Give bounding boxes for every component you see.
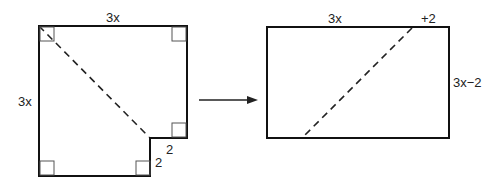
right-cut-line xyxy=(303,28,412,137)
right-angle-marker-step-outer xyxy=(172,123,186,137)
diagram-canvas: 3x 3x 2 2 3x +2 3x−2 xyxy=(0,0,496,185)
right-angle-marker-top-right xyxy=(172,27,186,41)
right-angle-marker-bottom-right xyxy=(136,161,150,175)
left-cut-line xyxy=(39,26,149,137)
right-angle-marker-bottom-left xyxy=(40,161,54,175)
left-side-label: 3x xyxy=(18,94,32,109)
right-top-extra-label: +2 xyxy=(421,11,436,26)
step-vertical-label: 2 xyxy=(155,155,162,170)
step-horizontal-label: 2 xyxy=(166,142,173,157)
right-figure: 3x +2 3x−2 xyxy=(267,11,482,138)
left-top-label: 3x xyxy=(106,10,120,25)
right-top-label: 3x xyxy=(328,11,342,26)
left-polygon xyxy=(39,26,187,176)
arrow-icon xyxy=(199,96,258,104)
left-figure: 3x 3x 2 2 xyxy=(18,10,187,176)
right-side-label: 3x−2 xyxy=(453,75,482,90)
